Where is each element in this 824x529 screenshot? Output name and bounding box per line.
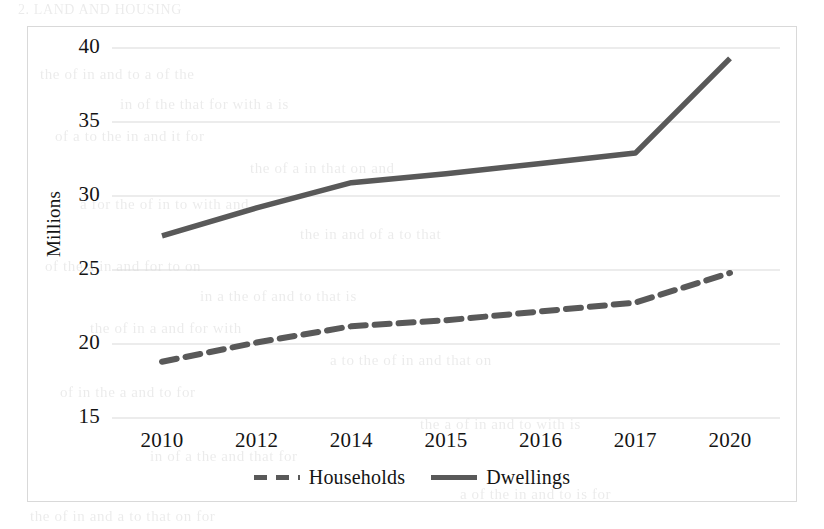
legend-label: Households <box>309 466 405 489</box>
y-axis-title: Millions <box>43 164 65 284</box>
series-line-dwellings <box>162 58 730 236</box>
legend-swatch-dashed-icon <box>254 475 300 480</box>
series-line-households <box>162 273 730 362</box>
gridlines-group <box>112 48 780 418</box>
legend-swatch-solid-icon <box>431 475 477 480</box>
series-lines-group <box>162 58 730 361</box>
legend-item-households: Households <box>254 466 405 489</box>
chart-legend: HouseholdsDwellings <box>27 466 797 489</box>
chart-canvas <box>0 0 824 529</box>
legend-label: Dwellings <box>486 466 570 489</box>
legend-item-dwellings: Dwellings <box>431 466 570 489</box>
